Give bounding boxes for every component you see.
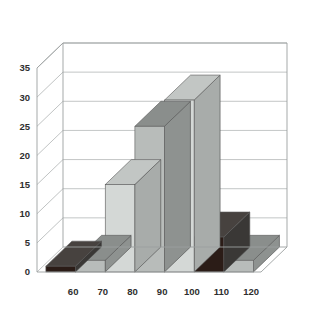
bar-side-100 (194, 75, 220, 272)
x-tick-label-100: 100 (184, 286, 200, 297)
y-tick-label-25: 25 (19, 121, 30, 132)
top-left-diagonal (37, 43, 63, 68)
y-tick-label-30: 30 (19, 92, 30, 103)
bar-side-90 (164, 101, 190, 272)
y-tick-label-5: 5 (25, 237, 31, 248)
y-tick-label-35: 35 (19, 62, 30, 73)
x-tick-label-110: 110 (214, 286, 229, 297)
x-tick-label-70: 70 (98, 286, 109, 297)
x-tick-label-60: 60 (68, 286, 79, 297)
x-tick-label-90: 90 (157, 286, 168, 297)
y-tick-label-10: 10 (19, 208, 30, 219)
y-tick-label-20: 20 (19, 150, 30, 161)
chart-container: 0510152025303560708090100110120 (0, 0, 310, 314)
depth-rib-25 (37, 101, 63, 126)
depth-rib-10 (37, 189, 63, 214)
bar-front-60 (46, 266, 76, 272)
histogram-3d-chart: 0510152025303560708090100110120 (0, 0, 310, 314)
y-tick-label-0: 0 (25, 266, 30, 277)
depth-rib-15 (37, 160, 63, 185)
depth-rib-20 (37, 130, 63, 155)
depth-rib-30 (37, 72, 63, 97)
depth-rib-5 (37, 218, 63, 243)
x-tick-label-120: 120 (243, 286, 259, 297)
x-tick-label-80: 80 (127, 286, 138, 297)
y-tick-label-15: 15 (19, 179, 30, 190)
